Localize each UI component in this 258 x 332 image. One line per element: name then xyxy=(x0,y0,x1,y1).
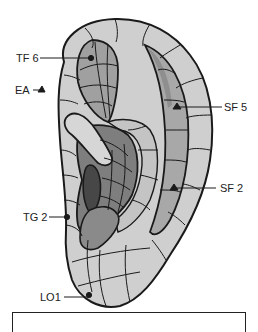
label-sf5: SF 5 xyxy=(224,102,247,113)
label-tf6: TF 6 xyxy=(16,53,39,64)
label-ea: EA xyxy=(15,85,30,96)
caption-box xyxy=(12,312,246,332)
label-tg2: TG 2 xyxy=(23,212,47,223)
label-lo1: LO1 xyxy=(40,292,61,303)
concha-cavum xyxy=(83,165,100,211)
label-sf2: SF 2 xyxy=(220,183,243,194)
